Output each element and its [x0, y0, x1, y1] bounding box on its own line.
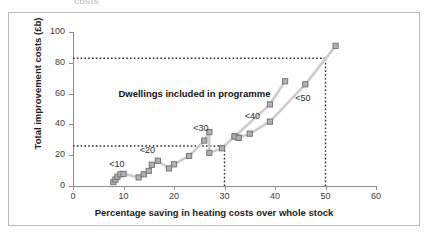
data-point-0-9: [155, 158, 160, 163]
data-point-0-11: [171, 162, 176, 167]
data-point-2-1: [247, 131, 252, 136]
data-point-2-3: [303, 82, 308, 87]
chart-figure: costs 0204060801000102030405060 Total im…: [0, 0, 432, 236]
cluster-label-lt20: <20: [140, 145, 155, 155]
data-point-2-0: [236, 135, 241, 140]
data-point-0-6: [141, 172, 146, 177]
region-note: Dwellings included in programme: [118, 88, 270, 99]
data-point-0-5: [136, 175, 141, 180]
data-point-0-8: [149, 162, 154, 167]
cluster-label-lt50: <50: [295, 93, 310, 103]
data-point-2-2: [267, 119, 272, 124]
data-point-0-7: [146, 168, 151, 173]
data-point-1-2: [283, 79, 288, 84]
cluster-label-lt40: <40: [245, 111, 260, 121]
cluster-label-lt10: <10: [109, 159, 124, 169]
plot-overlay: [0, 0, 432, 236]
data-point-2-4: [333, 43, 338, 48]
data-point-0-4: [121, 171, 126, 176]
data-point-0-13: [202, 138, 207, 143]
data-point-0-16: [219, 146, 224, 151]
data-point-0-10: [166, 166, 171, 171]
data-point-0-15: [207, 150, 212, 155]
data-point-0-12: [187, 153, 192, 158]
series-line-0: [113, 132, 238, 182]
data-point-1-1: [267, 102, 272, 107]
cluster-label-lt30: <30: [193, 123, 208, 133]
